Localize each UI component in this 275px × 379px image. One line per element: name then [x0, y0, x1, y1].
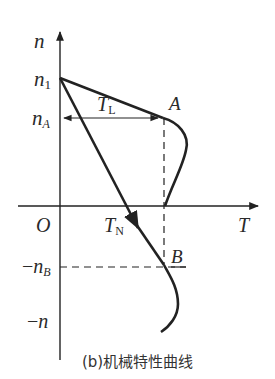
point-b-label: B: [171, 246, 183, 267]
tn-to-b-line: [136, 224, 164, 265]
figure-caption: (b)机械特性曲线: [0, 350, 275, 371]
motor-curve-upper: [163, 118, 187, 206]
motor-curve-lower: [161, 265, 178, 332]
tl-label: TL: [97, 93, 115, 117]
origin-label: O: [36, 214, 50, 236]
point-a-label: A: [167, 93, 181, 114]
na-label: nA: [32, 106, 51, 131]
neg-n-label: −n: [27, 310, 48, 332]
t-axis-label: T: [238, 214, 251, 236]
mechanical-characteristic-diagram: n T O n1 nA −nB −n TL TN A B: [0, 0, 275, 379]
n1-label: n1: [34, 67, 51, 92]
tn-label: TN: [104, 214, 124, 238]
n-axis-label: n: [34, 29, 45, 53]
neg-nb-label: −nB: [22, 255, 51, 279]
